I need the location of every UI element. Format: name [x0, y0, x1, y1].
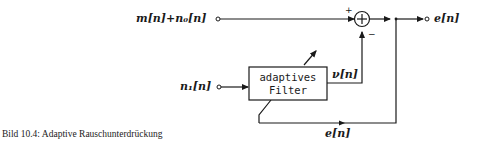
filter-label-line1: adaptives	[260, 71, 317, 83]
figure-caption: Bild 10.4: Adaptive Rauschunterdrückung	[2, 129, 162, 139]
primary-input-terminal	[216, 17, 220, 21]
primary-input-label: m[n]+n₀[n]	[136, 12, 207, 25]
filter-output-label: ν[n]	[332, 68, 358, 81]
reference-input-label: n₁[n]	[180, 80, 211, 93]
plus-sign: +	[345, 5, 353, 15]
minus-sign: −	[368, 29, 376, 39]
reference-input-terminal	[217, 85, 221, 89]
output-terminal	[425, 17, 429, 21]
feedback-arrow	[339, 121, 345, 126]
feedback-label: e[n]	[325, 127, 350, 140]
adaptation-arrow-icon	[304, 51, 316, 65]
filter-label-line2: Filter	[269, 84, 307, 96]
summing-junction	[355, 12, 370, 27]
adaptation-line	[259, 100, 271, 123]
output-label: e[n]	[434, 12, 459, 25]
